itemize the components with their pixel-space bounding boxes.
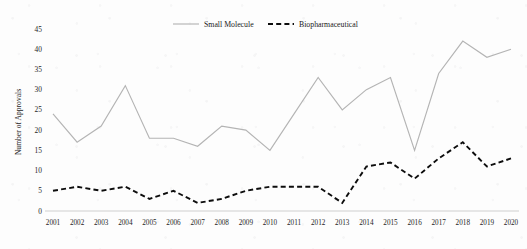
chart-legend: Small Molecule Biopharmaceutical (173, 20, 359, 29)
y-tick-15: 15 (35, 146, 43, 155)
x-tick-2008: 2008 (215, 219, 230, 227)
y-tick-25: 25 (35, 105, 43, 114)
x-tick-2004: 2004 (118, 219, 133, 227)
x-tick-2019: 2019 (480, 219, 495, 227)
y-axis-tick-labels: 051015202530354045 (35, 25, 43, 216)
series-line-biopharmaceutical (53, 142, 511, 203)
y-tick-40: 40 (35, 45, 43, 54)
x-tick-2009: 2009 (239, 219, 254, 227)
x-tick-2018: 2018 (456, 219, 471, 227)
x-axis-tick-labels: 2001200220032004200520062007200820092010… (46, 219, 519, 227)
x-tick-2005: 2005 (142, 219, 157, 227)
x-tick-2013: 2013 (335, 219, 350, 227)
y-tick-45: 45 (35, 25, 43, 34)
x-tick-2010: 2010 (263, 219, 278, 227)
x-tick-2017: 2017 (431, 219, 446, 227)
legend-label-biopharmaceutical: Biopharmaceutical (299, 20, 359, 29)
approvals-line-chart: 051015202530354045 200120022003200420052… (0, 0, 527, 249)
y-tick-35: 35 (35, 65, 43, 74)
x-tick-2020: 2020 (504, 219, 519, 227)
chart-plot-area: 051015202530354045 200120022003200420052… (0, 0, 527, 249)
y-axis-title: Number of Approvals (14, 89, 23, 155)
x-tick-2003: 2003 (94, 219, 109, 227)
legend-label-small-molecule: Small Molecule (204, 20, 254, 29)
y-tick-30: 30 (35, 85, 43, 94)
x-tick-2014: 2014 (359, 219, 374, 227)
y-tick-0: 0 (38, 207, 42, 216)
x-tick-2002: 2002 (70, 219, 85, 227)
x-tick-2007: 2007 (190, 219, 205, 227)
series-line-small-molecule (53, 41, 511, 150)
x-tick-2012: 2012 (311, 219, 326, 227)
y-tick-20: 20 (35, 126, 43, 135)
x-tick-2015: 2015 (383, 219, 398, 227)
y-tick-5: 5 (38, 186, 42, 195)
x-tick-2011: 2011 (287, 219, 302, 227)
x-tick-2001: 2001 (46, 219, 61, 227)
x-tick-2006: 2006 (166, 219, 181, 227)
x-tick-2016: 2016 (407, 219, 422, 227)
y-tick-10: 10 (35, 166, 43, 175)
